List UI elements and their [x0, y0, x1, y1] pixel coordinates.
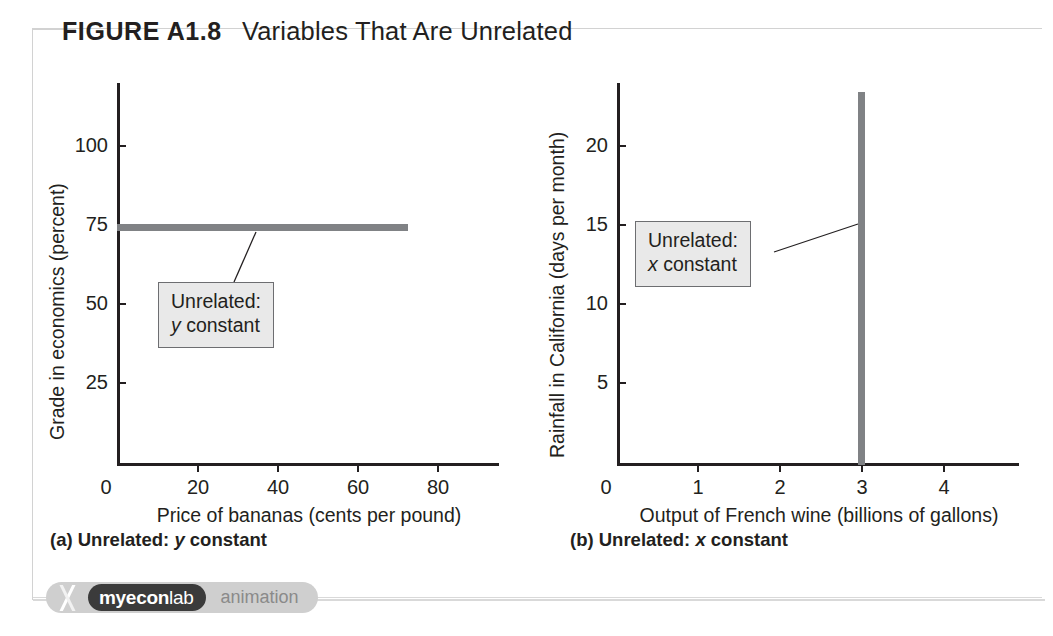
callout-a-suffix: constant — [181, 314, 260, 336]
plot-area-a: 100 75 50 25 0 20 40 60 80 Grade in econ… — [24, 60, 524, 560]
callout-b: Unrelated: x constant — [635, 221, 751, 287]
subcaption-a-suffix: constant — [185, 529, 267, 550]
figure-number: FIGURE A1.8 — [62, 17, 222, 45]
callout-b-variable: x — [648, 253, 658, 275]
callout-a-line1: Unrelated: — [171, 290, 261, 314]
chart-panel-a: 100 75 50 25 0 20 40 60 80 Grade in econ… — [24, 60, 524, 560]
callout-b-line1: Unrelated: — [648, 229, 738, 253]
subcaption-a: (a) Unrelated: y constant — [50, 529, 267, 551]
footer-animation-label: animation — [220, 587, 298, 608]
figure-name: Variables That Are Unrelated — [242, 17, 573, 45]
callout-b-suffix: constant — [658, 253, 737, 275]
subcaption-b: (b) Unrelated: x constant — [570, 529, 788, 551]
subcaption-b-suffix: constant — [706, 529, 788, 550]
subcaption-b-prefix: (b) Unrelated: — [570, 529, 695, 550]
callout-b-line2: x constant — [648, 253, 738, 277]
myeconlab-wordmark-bold: myecon — [99, 587, 169, 609]
footer-rule-left — [33, 597, 47, 598]
footer-rule-right — [318, 597, 1042, 598]
subcaption-b-variable: x — [695, 529, 705, 550]
myeconlab-animation-badge[interactable]: myeconlab animation — [46, 582, 318, 613]
myeconlab-wordmark-light: lab — [169, 587, 193, 609]
myeconlab-logo-icon — [52, 585, 86, 611]
subcaption-a-prefix: (a) Unrelated: — [50, 529, 174, 550]
callout-a-variable: y — [171, 314, 181, 336]
callout-a-line2: y constant — [171, 314, 261, 338]
subcaption-a-variable: y — [174, 529, 184, 550]
myeconlab-wordmark: myeconlab — [88, 584, 206, 611]
callout-a: Unrelated: y constant — [158, 282, 274, 348]
figure-title: FIGURE A1.8Variables That Are Unrelated — [62, 17, 573, 46]
callout-leader-a — [24, 60, 524, 560]
chart-panel-b: 20 15 10 5 0 1 2 3 4 Rainfall in Califor… — [544, 60, 1044, 560]
callout-leader-b — [544, 60, 1044, 560]
plot-area-b: 20 15 10 5 0 1 2 3 4 Rainfall in Califor… — [544, 60, 1044, 560]
